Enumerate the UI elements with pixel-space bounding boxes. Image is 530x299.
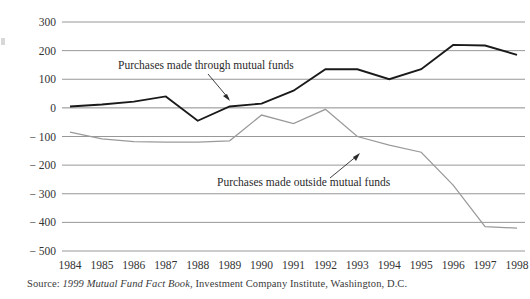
annotation-series-a: Purchases made through mutual funds <box>118 59 294 101</box>
x-tick-label: 1990 <box>250 259 273 271</box>
annotation-arrow-line-b <box>330 155 358 178</box>
x-tick-label: 1998 <box>506 259 529 271</box>
x-tick-label: 1994 <box>378 259 401 271</box>
y-tick-label: − 400 <box>29 216 56 228</box>
x-tick-label: 1984 <box>59 259 82 271</box>
x-tick-label: 1997 <box>474 259 497 271</box>
x-tick-label: 1985 <box>90 259 113 271</box>
y-axis-tick-labels: 3002001000− 100− 200− 300− 400− 500 <box>29 16 56 257</box>
x-tick-label: 1986 <box>122 259 145 271</box>
x-tick-label: 1989 <box>218 259 241 271</box>
y-tick-label: − 500 <box>29 245 56 257</box>
annotation-label-mutual-funds: Purchases made through mutual funds <box>118 59 294 72</box>
x-tick-label: 1991 <box>282 259 305 271</box>
chart-figure: 3002001000− 100− 200− 300− 400− 500 1984… <box>0 0 530 299</box>
y-tick-label: 100 <box>39 73 57 85</box>
x-tick-label: 1993 <box>346 259 369 271</box>
series-line-mutual-funds <box>70 45 517 121</box>
x-tick-label: 1988 <box>186 259 209 271</box>
source-rest: , Investment Company Institute, Washingt… <box>190 278 407 289</box>
x-tick-label: 1996 <box>442 259 465 271</box>
y-tick-label: − 200 <box>29 159 56 171</box>
source-prefix: Source: <box>27 278 60 289</box>
y-tick-label: 300 <box>39 16 57 28</box>
x-tick-label: 1995 <box>410 259 433 271</box>
gridlines-group <box>62 22 525 251</box>
annotation-arrow-head-a <box>223 94 230 101</box>
y-tick-label: − 300 <box>29 188 56 200</box>
x-axis-tick-labels: 1984198519861987198819891990199119921993… <box>59 259 529 271</box>
annotation-arrow-head-b <box>353 153 360 161</box>
annotation-label-outside-funds: Purchases made outside mutual funds <box>217 176 391 188</box>
annotation-series-b: Purchases made outside mutual funds <box>217 153 391 188</box>
series-line-outside-funds <box>70 109 517 228</box>
x-tick-label: 1992 <box>314 259 337 271</box>
source-note: Source: 1999 Mutual Fund Fact Book, Inve… <box>27 278 407 289</box>
y-tick-label: 200 <box>39 45 57 57</box>
line-chart-plot: 3002001000− 100− 200− 300− 400− 500 1984… <box>0 0 530 299</box>
y-tick-label: − 100 <box>29 131 56 143</box>
x-tick-label: 1987 <box>154 259 177 271</box>
source-title: 1999 Mutual Fund Fact Book <box>63 278 190 289</box>
y-tick-label: 0 <box>50 102 56 114</box>
